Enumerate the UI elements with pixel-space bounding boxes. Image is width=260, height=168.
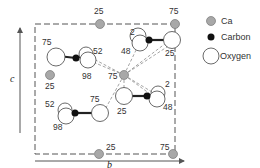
- oxygen-label: 98: [53, 122, 63, 132]
- ca-atom: [95, 150, 104, 159]
- oxygen-label: 2: [130, 27, 135, 37]
- ca-atom: [169, 150, 178, 159]
- ca-label: 25: [45, 81, 55, 91]
- oxygen-label: 75: [42, 37, 52, 47]
- oxygen-label: 75: [90, 94, 100, 104]
- ca-icon: [207, 17, 216, 26]
- oxygen-label: 25: [165, 48, 175, 58]
- ca-atom: [171, 20, 180, 29]
- legend-label-ca: Ca: [221, 16, 233, 26]
- ca-label: 75: [169, 6, 179, 16]
- carbonate-group: [58, 103, 109, 124]
- ca-label: 25: [106, 142, 116, 152]
- oxygen-label: 52: [93, 46, 103, 56]
- legend-label-oxygen: Oxygen: [220, 51, 251, 61]
- ca-atom: [96, 20, 105, 29]
- legend: Ca Carbon Oxygen: [203, 16, 251, 64]
- oxygen-label: 48: [121, 46, 131, 56]
- carbonate-group: [47, 47, 96, 68]
- c-axis-label: c: [10, 73, 15, 84]
- ca-atom: [46, 71, 55, 80]
- oxygen-label: 52: [45, 99, 55, 109]
- calcite-structure-diagram: c b 25 75 25 75 25 75 75 52 98: [0, 0, 260, 168]
- carbon-icon: [208, 34, 215, 41]
- oxygen-label: 25: [117, 106, 127, 116]
- ca-label: 75: [108, 71, 118, 81]
- oxygen-icon: [203, 48, 219, 64]
- oxygen-label: 48: [163, 102, 173, 112]
- legend-label-carbon: Carbon: [221, 32, 251, 42]
- carbonate-group: [116, 86, 166, 107]
- oxygen-label: 2: [165, 79, 170, 89]
- ca-label: 75: [160, 142, 170, 152]
- b-axis-label: b: [107, 159, 112, 168]
- oxygen-label: 98: [82, 71, 92, 81]
- ca-atom: [120, 71, 129, 80]
- ca-label: 25: [94, 6, 104, 16]
